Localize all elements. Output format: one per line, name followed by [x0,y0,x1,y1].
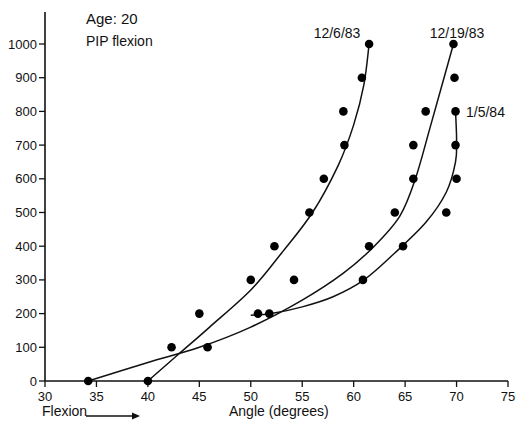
fit-curve-1 [148,44,369,381]
x-axis-label: Angle (degrees) [229,403,329,419]
flexion-label: Flexion [42,403,87,419]
y-tick-label: 600 [15,171,37,186]
x-tick-label: 45 [192,389,206,404]
y-tick-label: 400 [15,239,37,254]
data-point [254,309,263,318]
data-point [452,175,461,184]
y-tick-label: 200 [15,306,37,321]
data-point [359,276,368,285]
y-tick-label: 300 [15,272,37,287]
data-point [203,343,212,352]
data-point [246,276,255,285]
data-point [365,242,374,251]
data-point [409,175,418,184]
y-tick-label: 700 [15,138,37,153]
axes: 0100200300400500600700800900100030354045… [8,12,515,404]
y-tick-label: 1000 [8,37,37,52]
x-tick-label: 55 [295,389,309,404]
series-label-1: 12/6/83 [314,25,361,41]
data-point [451,107,460,116]
x-tick-label: 70 [449,389,463,404]
data-points [84,40,461,386]
data-point [358,73,367,82]
x-tick-label: 35 [89,389,103,404]
data-point [265,309,274,318]
data-point [144,377,153,386]
data-point [450,73,459,82]
data-point [84,377,93,386]
x-tick-label: 40 [141,389,155,404]
x-tick-label: 50 [244,389,258,404]
x-tick-label: 65 [398,389,412,404]
x-tick-label: 30 [38,389,52,404]
flexion-arrow-icon [86,413,140,420]
data-point [270,242,279,251]
data-point [409,141,418,150]
data-point [305,208,314,217]
series-label-2: 12/19/83 [430,25,485,41]
y-tick-label: 0 [30,374,37,389]
chart-plot: 0100200300400500600700800900100030354045… [0,0,528,432]
x-tick-label: 60 [346,389,360,404]
y-tick-label: 800 [15,104,37,119]
data-point [340,141,349,150]
y-tick-label: 100 [15,340,37,355]
data-point [290,276,299,285]
data-point [195,309,204,318]
fit-curves [88,44,456,381]
data-point [421,107,430,116]
data-point [365,40,374,49]
data-point [391,208,400,217]
data-point [451,141,460,150]
data-point [339,107,348,116]
data-point [399,242,408,251]
x-tick-label: 75 [501,389,515,404]
y-tick-label: 900 [15,70,37,85]
data-point [167,343,176,352]
series-label-3: 1/5/84 [466,104,505,120]
y-tick-label: 500 [15,205,37,220]
data-point [320,175,329,184]
data-point [442,208,451,217]
